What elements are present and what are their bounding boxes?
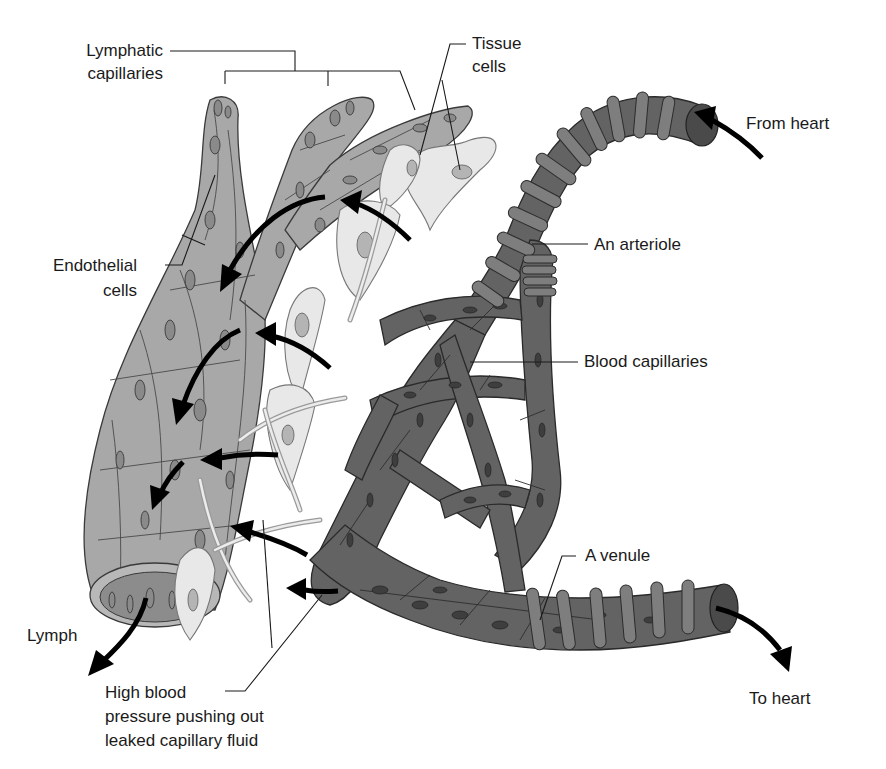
label-tissue-cells-2: cells xyxy=(472,57,506,76)
leak-arrow-5 xyxy=(305,590,338,592)
label-high-blood-pressure-1: High blood xyxy=(105,683,186,702)
label-lymphatic-capillaries-1: Lymphatic xyxy=(86,41,163,60)
label-lymph: Lymph xyxy=(27,626,77,645)
label-endothelial-cells-1: Endothelial xyxy=(53,256,137,275)
label-high-blood-pressure-2: pressure pushing out xyxy=(105,707,264,726)
label-to-heart: To heart xyxy=(749,689,811,708)
label-high-blood-pressure-3: leaked capillary fluid xyxy=(105,731,258,750)
leak-arrow-4 xyxy=(250,532,307,555)
label-an-arteriole: An arteriole xyxy=(594,235,681,254)
label-endothelial-cells-2: cells xyxy=(103,281,137,300)
label-lymphatic-capillaries-2: capillaries xyxy=(87,64,163,83)
label-from-heart: From heart xyxy=(746,114,829,133)
label-blood-capillaries: Blood capillaries xyxy=(584,352,708,371)
label-a-venule: A venule xyxy=(585,546,650,565)
lymphatic-capillary-diagram: Lymphatic capillaries Tissue cells Endot… xyxy=(0,0,886,769)
label-tissue-cells-1: Tissue xyxy=(472,34,521,53)
